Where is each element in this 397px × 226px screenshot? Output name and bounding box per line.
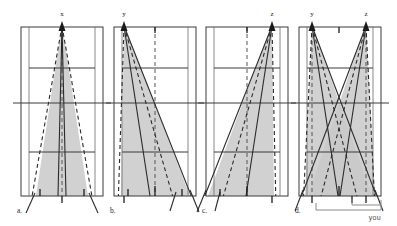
player-marker-z-d (363, 21, 370, 31)
panel-c-shade (208, 24, 274, 196)
coverage-bracket-group (316, 199, 381, 210)
panel-a: x a. (13, 10, 111, 215)
panel-c: z c. (197, 10, 296, 215)
player-marker-y (121, 21, 128, 31)
ray-extend-right-d (375, 190, 383, 211)
player-marker-z (269, 21, 276, 31)
figure-canvas: x a. y (0, 0, 397, 226)
court-diagram-svg: x a. y (0, 0, 397, 226)
player-marker-y-d (309, 21, 316, 31)
bracket-label-you: you (369, 214, 381, 222)
panel-caption-b: b. (110, 206, 116, 215)
panel-caption-c: c. (202, 206, 207, 215)
ray-extend-right-b (190, 190, 199, 212)
shot-cone-z (208, 24, 274, 196)
label-origin-z: z (270, 10, 273, 18)
panel-b: y b. (106, 10, 204, 215)
panel-caption-d: d. (295, 206, 301, 215)
panel-c-court (198, 27, 296, 196)
label-origin-x: x (60, 10, 64, 18)
panel-d: y z you d. (291, 10, 389, 222)
label-origin-z-d: z (364, 10, 367, 18)
label-origin-y-d: y (310, 10, 314, 18)
panel-caption-a: a. (17, 206, 22, 215)
label-origin-y: y (122, 10, 126, 18)
